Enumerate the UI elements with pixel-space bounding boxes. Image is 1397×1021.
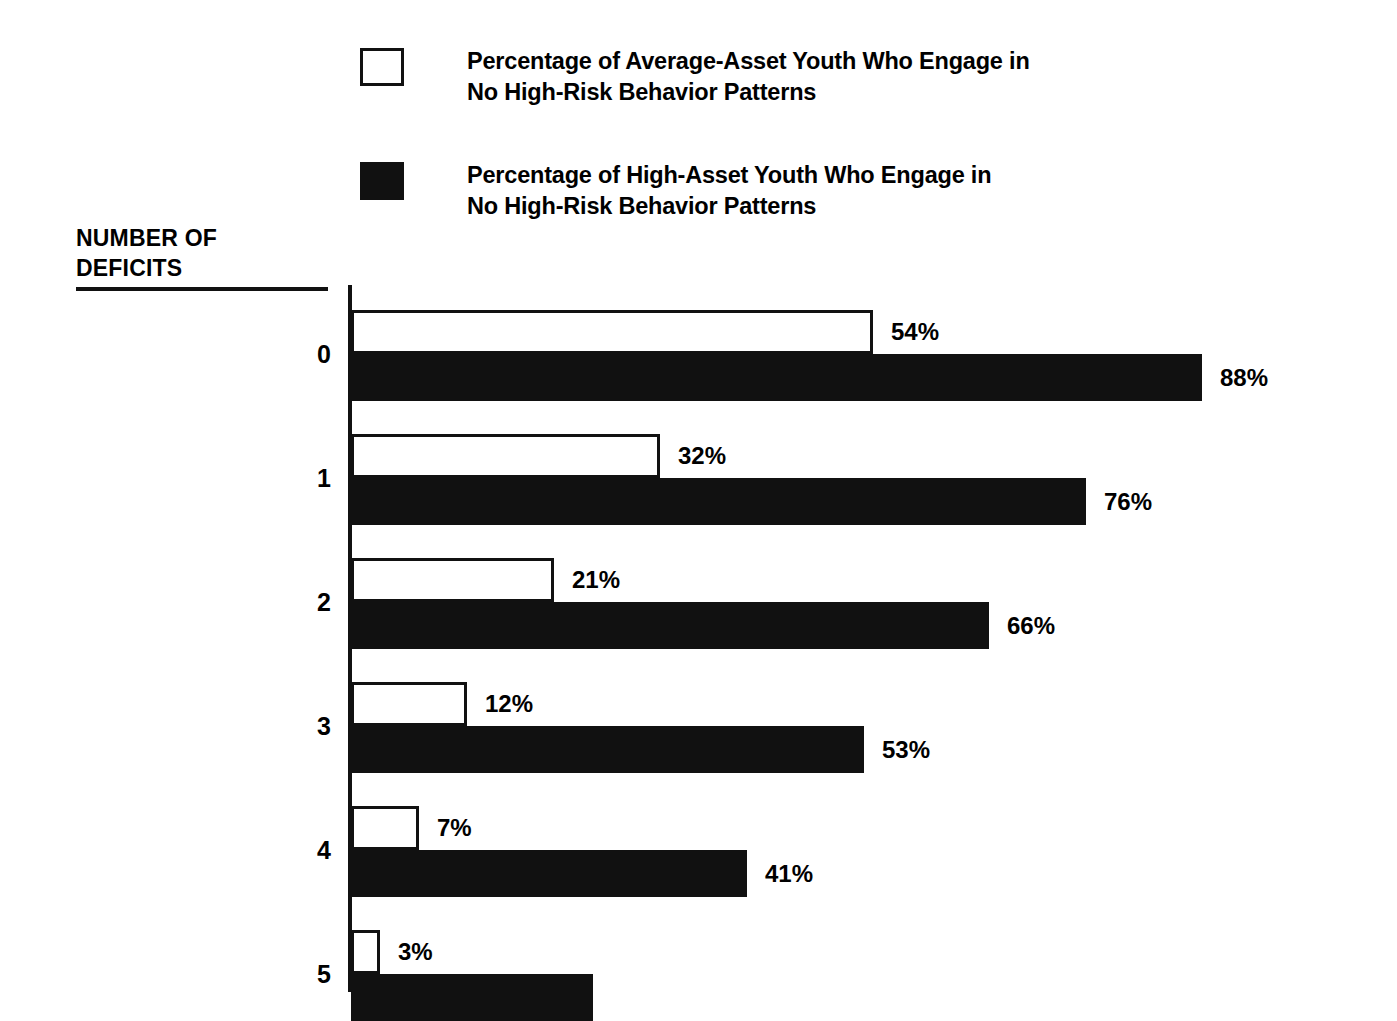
bar-rect (351, 930, 380, 974)
bar-value-label: 53% (882, 738, 930, 762)
bar-average-asset: 12% (351, 682, 533, 726)
bar-value-label: 12% (485, 692, 533, 716)
bar-value-label: 3% (398, 940, 433, 964)
bar-rect (351, 558, 554, 602)
category-label: 4 (271, 838, 331, 863)
bar-value-label: 21% (572, 568, 620, 592)
bar-average-asset: 21% (351, 558, 620, 602)
bar-value-label: 7% (437, 816, 472, 840)
category-label: 2 (271, 590, 331, 615)
bar-value-label: 54% (891, 320, 939, 344)
bar-rect (351, 478, 1086, 525)
bar-value-label: 41% (765, 862, 813, 886)
category-label: 5 (271, 962, 331, 987)
bar-rect (351, 682, 467, 726)
bar-average-asset: 3% (351, 930, 433, 974)
bar-rect (351, 806, 419, 850)
bar-high-asset: 88% (351, 354, 1268, 401)
bar-value-label: 76% (1104, 490, 1152, 514)
bar-rect (351, 602, 989, 649)
bar-high-asset: 53% (351, 726, 930, 773)
bar-rect (351, 434, 660, 478)
bar-average-asset: 7% (351, 806, 472, 850)
bar-rect (351, 974, 593, 1021)
bar-rect (351, 354, 1202, 401)
bar-high-asset: 76% (351, 478, 1152, 525)
bar-value-label: 32% (678, 444, 726, 468)
category-label: 0 (271, 342, 331, 367)
bar-rect (351, 726, 864, 773)
bar-high-asset (351, 974, 593, 1021)
bar-value-label: 66% (1007, 614, 1055, 638)
category-label: 1 (271, 466, 331, 491)
bar-value-label: 88% (1220, 366, 1268, 390)
bar-rect (351, 850, 747, 897)
bar-rect (351, 310, 873, 354)
bar-high-asset: 41% (351, 850, 813, 897)
bar-average-asset: 54% (351, 310, 939, 354)
bar-high-asset: 66% (351, 602, 1055, 649)
category-label: 3 (271, 714, 331, 739)
bar-average-asset: 32% (351, 434, 726, 478)
